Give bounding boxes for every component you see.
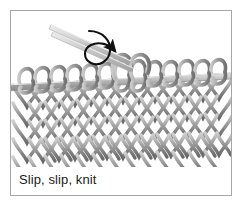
- figure-caption-text: Slip, slip, knit: [19, 172, 96, 188]
- figure-caption-area: Slip, slip, knit: [11, 167, 231, 195]
- figure-card: Slip, slip, knit: [10, 10, 232, 196]
- knitting-diagram-svg: [11, 11, 231, 167]
- knitting-illustration: [11, 11, 231, 167]
